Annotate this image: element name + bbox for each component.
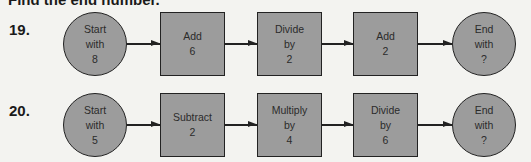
end-label: with	[475, 37, 494, 52]
start-value: 5	[92, 133, 98, 148]
problem-20-flowchart: 20. Start with 5 Subtract 2 Multiply by …	[0, 81, 531, 162]
start-label: Start	[84, 103, 106, 118]
step-preposition: by	[284, 118, 295, 133]
arrow-icon	[225, 43, 257, 45]
step-node: Divide by 6	[353, 93, 418, 157]
step-preposition: by	[284, 37, 295, 52]
arrow-icon	[322, 124, 353, 126]
step-operand: 2	[383, 44, 389, 59]
step-operation: Subtract	[173, 110, 212, 125]
start-label: Start	[84, 22, 106, 37]
start-label: with	[86, 37, 105, 52]
problem-number: 20.	[9, 102, 30, 119]
end-label: End	[475, 22, 494, 37]
step-operation: Multiply	[272, 103, 308, 118]
step-operation: Divide	[371, 103, 400, 118]
problem-number: 19.	[9, 21, 30, 38]
step-operand: 6	[190, 44, 196, 59]
step-operand: 2	[287, 52, 293, 67]
end-value: ?	[481, 133, 487, 148]
step-operation: Divide	[275, 22, 304, 37]
start-node: Start with 8	[63, 12, 127, 76]
step-node: Multiply by 4	[257, 93, 322, 157]
end-node: End with ?	[452, 93, 516, 157]
problem-19-flowchart: 19. Start with 8 Add 6 Divide by 2 Add 2…	[0, 0, 531, 81]
arrow-icon	[225, 124, 257, 126]
step-operation: Add	[376, 29, 395, 44]
end-label: End	[475, 103, 494, 118]
start-node: Start with 5	[63, 93, 127, 157]
arrow-icon	[418, 124, 452, 126]
start-label: with	[86, 118, 105, 133]
arrow-icon	[322, 43, 353, 45]
arrow-icon	[127, 43, 160, 45]
step-operand: 6	[383, 133, 389, 148]
step-operation: Add	[183, 29, 202, 44]
start-value: 8	[92, 52, 98, 67]
step-node: Subtract 2	[160, 93, 225, 157]
arrow-icon	[127, 124, 160, 126]
end-label: with	[475, 118, 494, 133]
step-preposition: by	[380, 118, 391, 133]
step-node: Divide by 2	[257, 12, 322, 76]
step-node: Add 6	[160, 12, 225, 76]
end-node: End with ?	[452, 12, 516, 76]
step-operand: 2	[190, 125, 196, 140]
step-node: Add 2	[353, 12, 418, 76]
end-value: ?	[481, 52, 487, 67]
arrow-icon	[418, 43, 452, 45]
step-operand: 4	[287, 133, 293, 148]
